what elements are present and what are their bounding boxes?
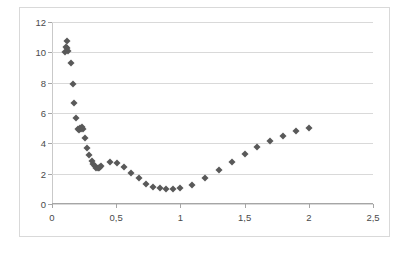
- data-point: [135, 174, 142, 181]
- data-point: [114, 159, 121, 166]
- y-tick-label: 2: [41, 168, 46, 179]
- data-point: [84, 144, 91, 151]
- data-point: [106, 158, 113, 165]
- y-tick-label: 8: [41, 77, 46, 88]
- chart-frame: 024681012 00,511,522,5: [19, 7, 390, 237]
- data-point: [73, 114, 80, 121]
- x-tick-label: 2: [306, 212, 311, 223]
- y-tick-label: 12: [35, 17, 46, 28]
- gridline-y: [52, 174, 373, 175]
- y-tick-mark: [48, 174, 52, 175]
- y-tick-label: 6: [41, 108, 46, 119]
- data-point: [67, 60, 74, 67]
- x-tick-mark: [52, 204, 53, 208]
- gridline-y: [52, 143, 373, 144]
- data-point: [177, 185, 184, 192]
- y-tick-label: 4: [41, 138, 46, 149]
- y-tick-mark: [48, 52, 52, 53]
- data-point: [254, 143, 261, 150]
- y-tick-mark: [48, 83, 52, 84]
- y-tick-mark: [48, 143, 52, 144]
- x-tick-label: 0: [49, 212, 54, 223]
- x-tick-mark: [373, 204, 374, 208]
- data-point: [69, 80, 76, 87]
- x-tick-label: 1: [178, 212, 183, 223]
- data-point: [305, 124, 312, 131]
- x-tick-mark: [245, 204, 246, 208]
- gridline-y: [52, 22, 373, 23]
- data-point: [280, 133, 287, 140]
- gridline-y: [52, 52, 373, 53]
- x-tick-label: 2,5: [366, 212, 379, 223]
- gridline-y: [52, 204, 373, 205]
- data-point: [127, 169, 134, 176]
- x-tick-mark: [180, 204, 181, 208]
- gridline-y: [52, 113, 373, 114]
- y-tick-mark: [48, 22, 52, 23]
- y-tick-label: 0: [41, 199, 46, 210]
- data-point: [71, 100, 78, 107]
- x-tick-label: 1,5: [238, 212, 251, 223]
- data-point: [188, 181, 195, 188]
- data-point: [241, 150, 248, 157]
- data-point: [120, 164, 127, 171]
- y-tick-mark: [48, 113, 52, 114]
- y-tick-label: 10: [35, 47, 46, 58]
- plot-area: 024681012 00,511,522,5: [52, 22, 373, 204]
- x-tick-mark: [116, 204, 117, 208]
- data-point: [292, 128, 299, 135]
- data-point: [170, 185, 177, 192]
- data-point: [202, 175, 209, 182]
- data-point: [81, 135, 88, 142]
- x-tick-label: 0,5: [110, 212, 123, 223]
- gridline-y: [52, 83, 373, 84]
- data-point: [228, 158, 235, 165]
- data-point: [150, 183, 157, 190]
- x-tick-mark: [309, 204, 310, 208]
